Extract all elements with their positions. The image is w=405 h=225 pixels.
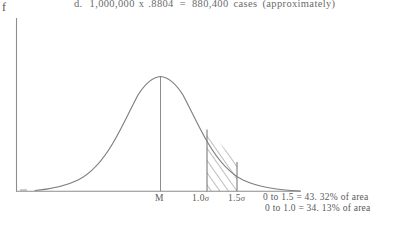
tick-one-point-five-sigma-value: 1.5 bbox=[228, 193, 241, 203]
area-annotations: 0 to 1.5 = 43. 32% of area 0 to 1.0 = 34… bbox=[263, 192, 371, 213]
area-annotation-line-1: 0 to 1.5 = 43. 32% of area bbox=[263, 192, 371, 203]
figure-page: d.1,000,000x.8804=880,400cases(approxima… bbox=[0, 0, 405, 225]
tick-label-one-point-five-sigma: 1.5σ bbox=[228, 193, 245, 203]
tick-one-sigma-value: 1.0 bbox=[192, 193, 205, 203]
sigma-icon: σ bbox=[205, 193, 210, 203]
sigma-icon: σ bbox=[241, 193, 246, 203]
area-annotation-line-2: 0 to 1.0 = 34. 13% of area bbox=[265, 203, 371, 214]
tick-label-one-sigma: 1.0σ bbox=[192, 193, 209, 203]
shaded-area-region bbox=[204, 125, 242, 193]
normal-curve-path bbox=[35, 77, 300, 192]
tick-label-mean: M bbox=[155, 193, 164, 203]
